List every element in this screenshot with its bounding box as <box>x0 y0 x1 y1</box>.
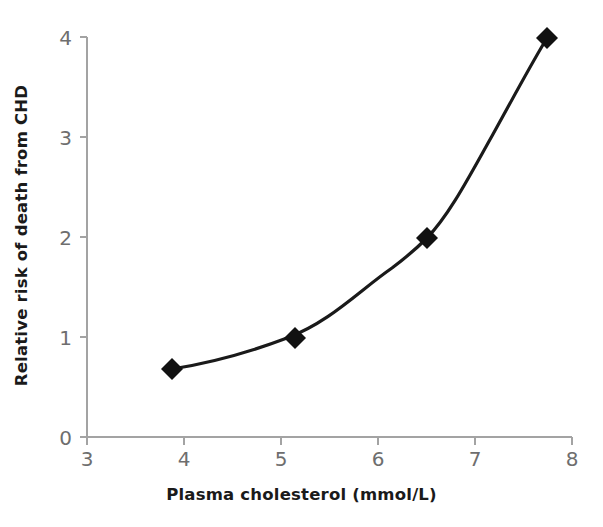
y-tick-label-4: 4 <box>48 26 72 50</box>
x-tick-label-6: 6 <box>366 447 390 471</box>
y-axis-ticks <box>80 37 87 437</box>
y-axis-title-wrap: Relative risk of death from CHD <box>0 0 44 470</box>
chart-figure: 4 3 2 1 0 3 4 5 6 7 8 Relative risk of d… <box>0 0 603 527</box>
x-tick-label-5: 5 <box>269 447 293 471</box>
x-axis-title: Plasma cholesterol (mmol/L) <box>0 485 603 504</box>
y-tick-label-3: 3 <box>48 126 72 150</box>
data-series-markers <box>161 27 558 380</box>
y-tick-label-0: 0 <box>48 426 72 450</box>
x-tick-label-7: 7 <box>463 447 487 471</box>
x-tick-label-3: 3 <box>75 447 99 471</box>
x-axis-ticks <box>87 437 572 445</box>
y-axis-title: Relative risk of death from CHD <box>13 84 32 385</box>
x-tick-label-4: 4 <box>172 447 196 471</box>
y-tick-label-2: 2 <box>48 226 72 250</box>
y-tick-label-1: 1 <box>48 326 72 350</box>
x-tick-label-8: 8 <box>560 447 584 471</box>
data-series-line <box>172 38 547 369</box>
